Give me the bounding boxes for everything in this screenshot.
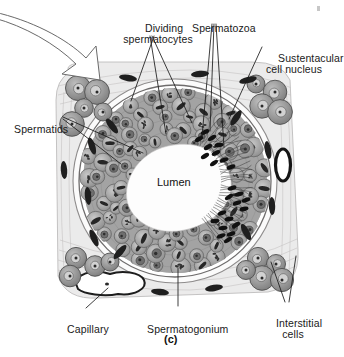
blood-vessel-right	[276, 149, 291, 181]
curved-arrow-icon	[0, 12, 100, 80]
label-spermatids: Spermatids	[2, 112, 68, 147]
capillary-vessel	[75, 272, 145, 295]
figure-panel: Dividing spermatocytes Spermatozoa Suste…	[0, 0, 344, 357]
label-sustentacular-cell-nucleus: Sustentacular cell nucleus	[266, 41, 344, 87]
label-lumen: Lumen	[157, 176, 191, 188]
figure-caption: (c)	[164, 333, 177, 345]
label-spermatozoa: Spermatozoa	[180, 11, 256, 46]
label-interstitial-cells: Interstitial cells	[263, 306, 323, 352]
scan-speck	[317, 6, 320, 11]
label-capillary: Capillary	[55, 312, 109, 347]
label-spermatogonium: Spermatogonium	[135, 312, 228, 347]
